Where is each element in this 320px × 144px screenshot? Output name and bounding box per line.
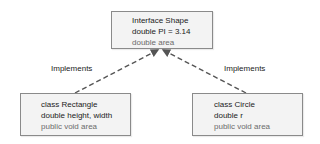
edge-label-implements-rectangle: Implements bbox=[51, 64, 92, 73]
class-rectangle-node[interactable]: class Rectangle double height, width pub… bbox=[20, 93, 131, 136]
node-field: double height, width bbox=[41, 110, 112, 121]
node-field: double r bbox=[214, 110, 270, 121]
node-title: class Rectangle bbox=[41, 99, 112, 110]
node-method: double area bbox=[132, 37, 191, 48]
node-method: public void area bbox=[41, 121, 112, 132]
interface-shape-node[interactable]: Interface Shape double PI = 3.14 double … bbox=[111, 11, 213, 49]
class-circle-node[interactable]: class Circle double r public void area bbox=[192, 93, 303, 136]
node-title: class Circle bbox=[214, 99, 270, 110]
node-method: public void area bbox=[214, 121, 270, 132]
edge-label-implements-circle: Implements bbox=[224, 64, 265, 73]
uml-diagram: Interface Shape double PI = 3.14 double … bbox=[0, 0, 320, 144]
node-field: double PI = 3.14 bbox=[132, 26, 191, 37]
node-title: Interface Shape bbox=[132, 15, 191, 26]
